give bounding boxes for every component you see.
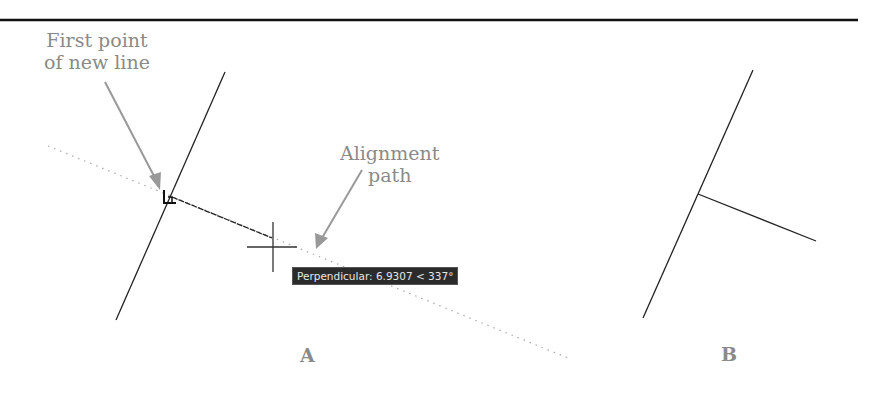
panel-a bbox=[48, 72, 568, 358]
crosshair-cursor-icon bbox=[247, 222, 297, 272]
panel-b-label: B bbox=[721, 343, 737, 365]
new-line-segment bbox=[172, 197, 272, 238]
alignment-path-callout: Alignment path bbox=[340, 142, 439, 186]
snap-tooltip: Perpendicular: 6.9307 < 337° bbox=[292, 267, 458, 285]
panel-b bbox=[643, 70, 816, 318]
first-point-callout-line2: of new line bbox=[44, 51, 150, 73]
first-point-arrow bbox=[105, 82, 161, 190]
panel-a-label: A bbox=[300, 344, 315, 366]
first-point-callout: First point of new line bbox=[44, 29, 150, 73]
existing-line-a bbox=[116, 72, 225, 320]
alignment-path-callout-line1: Alignment bbox=[340, 142, 439, 164]
alignment-path bbox=[48, 146, 568, 358]
perpendicular-line-b bbox=[698, 194, 816, 241]
alignment-path-callout-line2: path bbox=[340, 164, 439, 186]
perpendicular-snap-icon bbox=[164, 190, 176, 203]
first-point-callout-line1: First point bbox=[44, 29, 150, 51]
